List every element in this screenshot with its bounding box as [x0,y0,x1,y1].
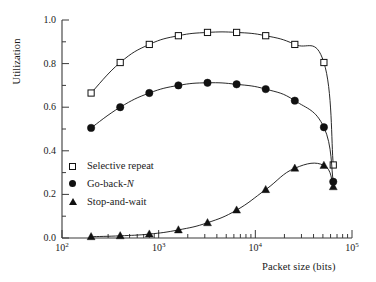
x-axis-ticks [62,230,352,238]
chart-legend: Selective repeat Go-back-N Stop-and-wait [66,158,154,209]
filled-circle-icon [66,177,82,190]
data-point-marker [233,206,241,213]
legend-label-go-back-n-text: Go-back- [87,178,127,189]
y-tick-label: 0.2 [28,188,56,199]
y-tick-label: 0.8 [28,58,56,69]
open-square-icon [66,159,82,172]
filled-triangle-icon [66,195,82,208]
x-tick-label: 103 [139,242,179,253]
x-tick-label: 102 [42,242,82,253]
y-tick-label: 0.6 [28,101,56,112]
data-point-marker [116,232,124,239]
y-tick-label: 0.4 [28,145,56,156]
data-point-marker [263,33,269,39]
data-point-marker [320,124,327,131]
legend-label-selective-repeat: Selective repeat [87,160,154,171]
data-point-marker [204,79,211,86]
data-point-marker [291,164,299,171]
legend-label-stop-and-wait: Stop-and-wait [87,196,147,207]
chart-plot-area [0,0,376,282]
legend-item-go-back-n: Go-back-N [66,176,154,191]
data-point-marker [87,232,95,239]
data-point-marker [88,90,94,96]
x-axis-title: Packet size (bits) [262,261,336,272]
series-selective-repeat [88,29,336,168]
data-point-marker [292,41,298,47]
data-point-marker [321,59,327,65]
data-point-marker [146,41,152,47]
x-tick-label: 105 [332,242,372,253]
legend-item-selective-repeat: Selective repeat [66,158,154,173]
data-point-marker [175,33,181,39]
data-point-marker [146,89,153,96]
utilization-vs-packet-size-chart: Utilization Packet size (bits) 0.00.20.4… [0,0,376,282]
y-axis-title: Utilization [11,22,22,102]
data-point-marker [117,104,124,111]
legend-item-stop-and-wait: Stop-and-wait [66,194,154,209]
y-tick-label: 1.0 [28,14,56,25]
data-point-marker [117,59,123,65]
data-point-marker [320,161,328,168]
data-point-marker [262,85,269,92]
x-tick-label: 104 [235,242,275,253]
data-point-marker [233,81,240,88]
data-point-marker [234,29,240,35]
legend-label-go-back-n-italic: N [127,178,134,189]
legend-label-go-back-n: Go-back-N [87,178,134,189]
data-point-marker [204,29,210,35]
data-point-marker [175,82,182,89]
data-point-marker [262,185,270,192]
data-point-marker [87,124,94,131]
data-point-marker [291,97,298,104]
